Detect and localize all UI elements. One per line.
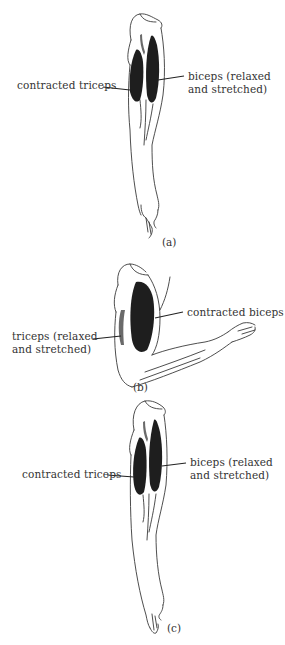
arm-illustration-c (0, 0, 285, 645)
label-contracted-triceps-c: contracted triceps (22, 468, 121, 481)
arm-muscle-figure: contracted triceps biceps (relaxed and s… (0, 0, 285, 645)
label-biceps-relaxed-c-line2: and stretched) (190, 469, 269, 482)
caption-c: (c) (167, 622, 181, 634)
label-biceps-relaxed-c-line1: biceps (relaxed (190, 456, 273, 469)
